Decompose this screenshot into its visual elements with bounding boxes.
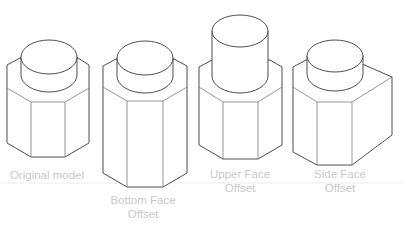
cylinder-top	[212, 15, 268, 47]
model-side-face-offset	[293, 40, 392, 165]
label-side-face-offset: Side Face Offset	[292, 167, 388, 195]
label-line1: Bottom Face	[95, 193, 191, 207]
label-line1: Side Face	[292, 167, 388, 181]
cylinder-top	[117, 41, 173, 75]
label-upper-face-offset: Upper Face Offset	[192, 167, 288, 195]
model-upper-face-offset	[199, 15, 282, 159]
model-bottom-face-offset	[103, 41, 187, 187]
model-original	[7, 40, 89, 157]
label-original: Original model	[0, 168, 94, 182]
label-line2: Offset	[292, 181, 388, 195]
label-line1: Upper Face	[192, 167, 288, 181]
cylinder-top	[307, 40, 363, 72]
label-line1: Original model	[0, 168, 94, 182]
label-bottom-face-offset: Bottom Face Offset	[95, 193, 191, 221]
cylinder-top	[21, 40, 77, 74]
label-line2: Offset	[192, 181, 288, 195]
label-line2: Offset	[95, 207, 191, 221]
